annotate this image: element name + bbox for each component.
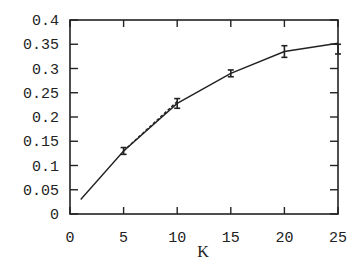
plot-area: 051015202500.050.10.150.20.250.30.350.4	[23, 13, 347, 247]
x-tick-label: 15	[222, 230, 240, 247]
y-tick-label: 0.2	[32, 110, 59, 127]
y-tick-label: 0.05	[23, 183, 59, 200]
x-tick-label: 0	[65, 230, 74, 247]
y-tick-label: 0.15	[23, 134, 59, 151]
x-tick-label: 10	[168, 230, 186, 247]
y-tick-label: 0.35	[23, 37, 59, 54]
y-tick-label: 0.25	[23, 86, 59, 103]
y-tick-label: 0	[50, 207, 59, 224]
y-tick-label: 0.4	[32, 13, 59, 30]
x-tick-label: 25	[329, 230, 347, 247]
y-tick-label: 0.1	[32, 159, 59, 176]
series-solid-line	[81, 43, 338, 199]
x-axis-label: K	[197, 243, 209, 260]
x-tick-label: 20	[275, 230, 293, 247]
line-chart: 051015202500.050.10.150.20.250.30.350.4 …	[0, 0, 361, 274]
series-dashed-line	[124, 101, 178, 150]
y-tick-label: 0.3	[32, 62, 59, 79]
x-tick-label: 5	[119, 230, 128, 247]
